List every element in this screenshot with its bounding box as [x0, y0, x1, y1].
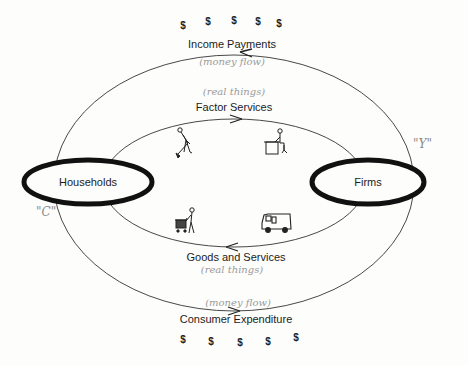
firms-label: Firms	[354, 176, 382, 188]
dollar-sign-icon: $	[205, 16, 211, 27]
dollar-sign-icon: $	[180, 20, 186, 31]
households-label: Households	[59, 176, 117, 188]
dollar-sign-icon: $	[180, 334, 186, 345]
dollar-sign-icon: $	[276, 18, 282, 29]
income-mark: "Y"	[413, 137, 432, 151]
goods-services-annotation: (real things)	[201, 264, 263, 275]
dollar-sign-icon: $	[265, 336, 271, 347]
factor-services-label: Factor Services	[196, 101, 272, 113]
income-payments-annotation: (money flow)	[199, 56, 265, 67]
income-payments-label: Income Payments	[188, 38, 276, 50]
dollar-sign-icon: $	[208, 336, 214, 347]
worker-digging-icon	[176, 128, 192, 158]
shopper-with-cart-icon	[175, 208, 194, 233]
factor-services-annotation: (real things)	[203, 86, 265, 97]
dollar-sign-icon: $	[255, 16, 261, 27]
office-worker-at-desk-icon	[264, 129, 287, 154]
consumer-expenditure-annotation: (money flow)	[205, 297, 271, 308]
dollar-sign-icon: $	[231, 15, 237, 26]
dollar-sign-icon: $	[237, 337, 243, 348]
consumption-mark: "C"	[36, 205, 56, 219]
delivery-van-icon	[262, 214, 291, 232]
consumer-expenditure-label: Consumer Expenditure	[180, 313, 293, 325]
dollar-sign-icon: $	[293, 332, 299, 343]
goods-services-label: Goods and Services	[186, 251, 285, 263]
